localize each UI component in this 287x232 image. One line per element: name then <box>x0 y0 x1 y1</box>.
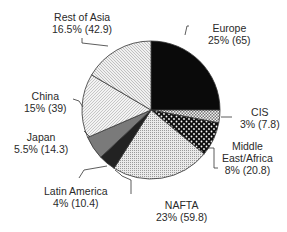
label-china: China 15% (39) <box>24 90 67 114</box>
label-rest-of-asia-value: 16.5% (42.9) <box>52 23 112 35</box>
label-europe-value: 25% (65) <box>208 34 251 46</box>
label-nafta: NAFTA 23% (59.8) <box>156 199 207 223</box>
label-cis-value: 3% (7.8) <box>240 118 280 130</box>
label-china-name: China <box>24 90 67 102</box>
label-latam-name: Latin America <box>44 185 108 197</box>
label-rest-of-asia: Rest of Asia 16.5% (42.9) <box>52 11 112 35</box>
label-europe: Europe 25% (65) <box>208 22 251 46</box>
label-cis-name: CIS <box>240 106 280 118</box>
label-mea-name-line1: Middle <box>222 140 273 152</box>
label-latin-america: Latin America 4% (10.4) <box>44 185 108 209</box>
label-cis: CIS 3% (7.8) <box>240 106 280 130</box>
label-mea-value: 8% (20.8) <box>222 164 273 176</box>
label-europe-name: Europe <box>208 22 251 34</box>
label-middle-east-africa: Middle East/Africa 8% (20.8) <box>222 140 273 176</box>
label-latam-value: 4% (10.4) <box>44 197 108 209</box>
label-rest-of-asia-name: Rest of Asia <box>52 11 112 23</box>
label-japan-value: 5.5% (14.3) <box>14 143 68 155</box>
label-nafta-name: NAFTA <box>156 199 207 211</box>
label-mea-name-line2: East/Africa <box>222 152 273 164</box>
pie-slices <box>82 41 220 179</box>
pie-slice-europe <box>151 41 220 110</box>
label-nafta-value: 23% (59.8) <box>156 211 207 223</box>
label-china-value: 15% (39) <box>24 102 67 114</box>
label-japan: Japan 5.5% (14.3) <box>14 131 68 155</box>
label-japan-name: Japan <box>14 131 68 143</box>
